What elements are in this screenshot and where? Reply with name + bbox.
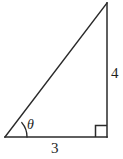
angle-label-theta: θ — [27, 118, 34, 132]
side-label-vertical: 4 — [111, 66, 119, 81]
figure-canvas: 4 3 θ — [0, 0, 123, 159]
side-label-base: 3 — [51, 141, 59, 156]
triangle-side-hypotenuse — [5, 3, 107, 137]
right-angle-marker-icon — [96, 126, 108, 138]
right-triangle-figure — [0, 0, 123, 159]
